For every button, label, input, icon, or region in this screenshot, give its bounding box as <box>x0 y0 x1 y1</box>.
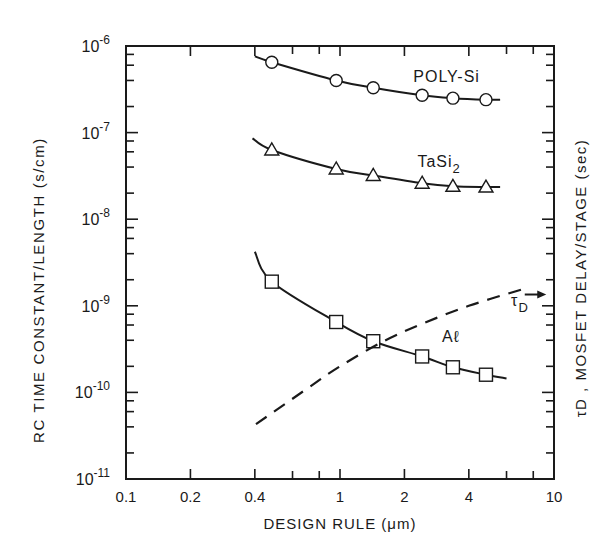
series-d-mosfet-delay-stage <box>256 289 522 424</box>
square-marker <box>416 350 429 363</box>
plot-frame <box>126 46 554 479</box>
square-marker <box>330 316 343 329</box>
x-tick-label: 10 <box>546 488 563 505</box>
chart: 0.10.20.41241010-610-710-810-910-1010-11… <box>0 0 608 555</box>
series-tasi2 <box>252 138 500 192</box>
series-al <box>255 252 507 381</box>
series-label-al: Aℓ <box>442 328 460 345</box>
plot-area-border <box>126 46 554 479</box>
circle-marker <box>480 94 492 106</box>
circle-marker <box>266 56 278 68</box>
x-tick-label: 0.1 <box>116 488 137 505</box>
y-tick-label: 10-11 <box>76 466 111 488</box>
x-tick-label: 0.4 <box>244 488 265 505</box>
series-label-poly-si: POLY-Si <box>413 68 480 85</box>
y-axis-label-right: τD , MOSFET DELAY/STAGE (sec) <box>572 139 589 418</box>
square-marker <box>265 275 278 288</box>
circle-marker <box>447 92 459 104</box>
series-labels: POLY-SiTaSi2AℓτD <box>413 68 546 345</box>
y-tick-label: 10-8 <box>82 206 111 228</box>
y-tick-label: 10-10 <box>75 379 110 401</box>
x-tick-label: 4 <box>465 488 473 505</box>
y-tick-label: 10-6 <box>82 33 111 55</box>
y-tick-label: 10-7 <box>82 120 111 142</box>
x-axis-label: DESIGN RULE (μm) <box>264 515 417 532</box>
x-tick-label: 0.2 <box>180 488 201 505</box>
x-tick-label: 2 <box>400 488 408 505</box>
circle-marker <box>330 74 342 86</box>
series-layer <box>252 56 522 424</box>
series-label-tasi2: TaSi2 <box>417 153 460 176</box>
y-tick-label: 10-9 <box>82 293 111 315</box>
square-marker <box>479 368 492 381</box>
x-tick-label: 1 <box>336 488 344 505</box>
chart-svg: 0.10.20.41241010-610-710-810-910-1010-11… <box>0 0 608 555</box>
series-line <box>255 252 507 379</box>
square-marker <box>446 361 459 374</box>
arrow-head-icon <box>537 291 546 299</box>
series-line <box>256 289 522 424</box>
y-axis-label-left: RC TIME CONSTANT/LENGTH (s/cm) <box>30 137 47 443</box>
circle-marker <box>367 82 379 94</box>
circle-marker <box>416 89 428 101</box>
